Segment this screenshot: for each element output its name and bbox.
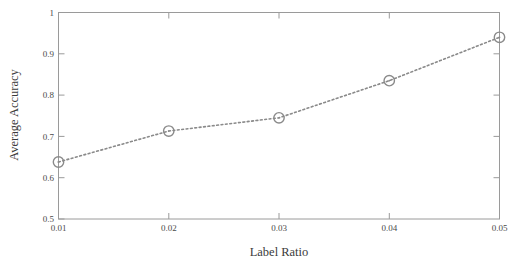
series-markers <box>53 32 504 167</box>
data-point-center <box>168 130 170 132</box>
x-axis-ticks <box>59 13 500 220</box>
data-point-center <box>499 36 501 38</box>
data-point-center <box>388 80 390 82</box>
chart-figure: 1 0.9 0.8 0.7 0.6 0.5 0.01 0.02 0.03 0.0… <box>0 0 525 267</box>
x-tick-label: 0.05 <box>492 223 508 233</box>
y-tick-labels: 1 0.9 0.8 0.7 0.6 0.5 <box>43 8 55 224</box>
x-tick-label: 0.02 <box>161 223 177 233</box>
series-line <box>59 37 500 162</box>
x-axis-title: Label Ratio <box>250 245 309 259</box>
y-axis-ticks <box>59 13 500 220</box>
data-point-center <box>278 117 280 119</box>
y-tick-label: 0.9 <box>43 49 55 59</box>
y-tick-label: 0.7 <box>43 132 55 142</box>
y-tick-label: 1 <box>50 8 55 18</box>
y-tick-label: 0.6 <box>43 173 55 183</box>
line-chart: 1 0.9 0.8 0.7 0.6 0.5 0.01 0.02 0.03 0.0… <box>0 0 525 267</box>
y-axis-title: Average Accuracy <box>7 68 21 160</box>
x-tick-label: 0.01 <box>51 223 67 233</box>
x-tick-label: 0.04 <box>381 223 397 233</box>
plot-area-border <box>59 13 500 220</box>
y-tick-label: 0.8 <box>43 90 55 100</box>
x-tick-label: 0.03 <box>271 223 287 233</box>
data-point-center <box>58 161 60 163</box>
x-tick-labels: 0.01 0.02 0.03 0.04 0.05 <box>51 223 508 233</box>
